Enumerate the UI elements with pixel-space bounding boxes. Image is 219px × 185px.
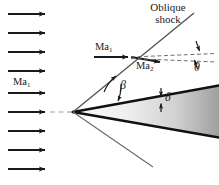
ma2-text: Ma [136,60,150,71]
beta-angle-label: β [120,79,126,92]
ma1-upper-text: Ma [95,41,109,52]
ma1-freestream-subscript: 1 [27,81,31,89]
diagram-canvas [0,0,219,185]
oblique-shock-label-line2: shock [155,13,181,25]
delta-angle-label: δ [165,91,171,104]
ma2-label: Ma2 [136,60,154,71]
theta-angle-label: θ [194,61,200,74]
freestream-flow-arrows [8,14,45,169]
theta-angle-arrow-upper [196,41,200,51]
ma1-freestream-label: Ma1 [13,76,31,87]
ma1-freestream-text: Ma [13,76,27,87]
ma2-subscript: 2 [150,65,154,73]
ma1-upper-label: Ma1 [95,41,113,52]
oblique-shock-label-line1: Oblique [150,1,185,13]
oblique-shock-label: Oblique shock [131,2,205,25]
oblique-shock-diagram: Oblique shock Ma1 Ma1 Ma2 θ β δ [0,0,219,185]
ma1-upper-subscript: 1 [109,46,113,54]
